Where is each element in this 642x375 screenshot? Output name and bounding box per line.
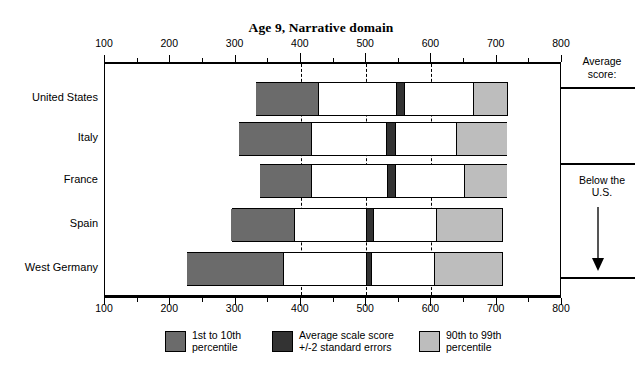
gridline-stub [365, 296, 366, 306]
legend-label-line2: percentile [192, 341, 241, 353]
legend-label-line1: 1st to 10th [192, 329, 241, 341]
gridline-stub [430, 53, 431, 63]
legend-label: Average scale score+/-2 standard errors [299, 329, 394, 353]
right-annotation-panel: Average score: Below the U.S. [561, 55, 642, 300]
panel-divider-top [561, 87, 635, 89]
axis-tick-label: 200 [149, 302, 189, 314]
axis-tick [137, 298, 138, 302]
legend-label-line2: percentile [446, 341, 501, 353]
gridline-stub [300, 53, 301, 63]
average-score-label-line2: score: [565, 68, 639, 81]
axis-tick-label: 700 [476, 302, 516, 314]
axis-tick-label: 100 [84, 302, 124, 314]
below-us-label-line2: U.S. [565, 186, 639, 199]
legend-label-line1: 90th to 99th [446, 329, 501, 341]
legend-swatch [272, 331, 293, 352]
below-us-label-line1: Below the [565, 174, 639, 187]
chart-root: Age 9, Narrative domain 1002003004005006… [0, 0, 642, 375]
panel-divider-middle [561, 163, 635, 165]
category-label-italy: Italy [2, 131, 98, 143]
category-label-west-germany: West Germany [2, 261, 98, 273]
category-label-france: France [2, 173, 98, 185]
category-label-spain: Spain [2, 217, 98, 229]
axis-tick [202, 298, 203, 302]
legend-label-line2: +/-2 standard errors [299, 341, 394, 353]
axis-tick [398, 298, 399, 302]
down-arrow-shaft [597, 207, 599, 260]
panel-divider-bottom [561, 277, 635, 279]
down-arrow-icon [592, 258, 604, 271]
axis-tick [463, 298, 464, 302]
gridline-stub [300, 296, 301, 306]
category-labels: United StatesItalyFranceSpainWest German… [0, 0, 642, 375]
average-score-label-line1: Average [565, 55, 639, 68]
legend-label: 90th to 99thpercentile [446, 329, 501, 353]
legend: 1st to 10thpercentileAverage scale score… [0, 330, 642, 370]
gridline-stub [365, 53, 366, 63]
axis-tick [333, 298, 334, 302]
category-label-united-states: United States [2, 91, 98, 103]
axis-tick-label: 800 [541, 302, 581, 314]
legend-label-line1: Average scale score [299, 329, 394, 341]
gridline-stub [430, 296, 431, 306]
legend-label: 1st to 10thpercentile [192, 329, 241, 353]
axis-tick [528, 298, 529, 302]
legend-swatch [165, 331, 186, 352]
axis-tick [267, 298, 268, 302]
legend-swatch [419, 331, 440, 352]
axis-tick-label: 300 [215, 302, 255, 314]
